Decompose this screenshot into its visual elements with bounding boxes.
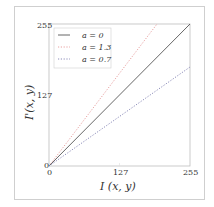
series-a-0.7 (49, 67, 190, 166)
line-chart: a = 0 a = 1.3 a = 0.7 255 127 0 0 127 25… (0, 0, 214, 207)
x-tick-127: 127 (113, 168, 128, 177)
x-axis-label: I (x, y) (99, 180, 136, 193)
y-tick-255: 255 (37, 21, 52, 30)
legend-label-a0.7: a = 0.7 (82, 55, 112, 64)
legend-label-a1.3: a = 1.3 (82, 43, 111, 52)
y-axis-label: I'(x, y) (23, 85, 36, 121)
x-tick-255: 255 (183, 168, 198, 177)
y-tick-127: 127 (37, 91, 52, 100)
x-tick-0: 0 (47, 168, 52, 177)
legend-label-a0: a = 0 (82, 31, 104, 40)
legend: a = 0 a = 1.3 a = 0.7 (54, 28, 112, 68)
